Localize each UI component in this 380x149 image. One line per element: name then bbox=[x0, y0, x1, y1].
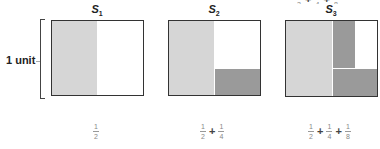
fraction: 14 bbox=[326, 123, 332, 140]
region-quarter bbox=[215, 69, 260, 95]
region-half bbox=[169, 21, 214, 95]
fraction: 12 bbox=[200, 123, 206, 140]
unit-bracket bbox=[40, 19, 45, 99]
square-s3 bbox=[285, 20, 378, 97]
panel-title-s3: S3 bbox=[311, 3, 351, 17]
plus-sign: + bbox=[335, 125, 341, 137]
square-s1 bbox=[51, 20, 144, 96]
fraction: 12 bbox=[308, 123, 314, 140]
square-s2 bbox=[168, 20, 261, 96]
fraction: 14 bbox=[218, 123, 224, 140]
fraction: 12 bbox=[93, 123, 99, 140]
unit-label: 1 unit bbox=[6, 54, 35, 66]
region-half bbox=[52, 21, 97, 95]
sum-s1: 12 bbox=[93, 123, 99, 140]
region-eighth bbox=[333, 21, 355, 68]
panel-title-s1: S1 bbox=[77, 3, 117, 17]
region-quarter bbox=[333, 69, 377, 96]
plus-sign: + bbox=[317, 125, 323, 137]
sum-s3: 12 + 14 + 18 bbox=[308, 123, 351, 140]
fraction: 18 bbox=[345, 123, 351, 140]
region-half bbox=[286, 21, 332, 96]
sum-s2: 12 + 14 bbox=[200, 123, 224, 140]
panel-title-s2: S2 bbox=[194, 3, 234, 17]
plus-sign: + bbox=[209, 125, 215, 137]
